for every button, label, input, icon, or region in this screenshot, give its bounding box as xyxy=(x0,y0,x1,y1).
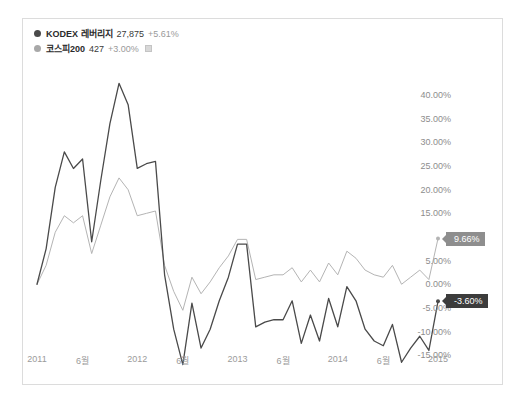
x-axis-tick-label: 2014 xyxy=(328,354,348,364)
legend-marker-icon xyxy=(34,30,41,37)
chart-panel: 40.00%35.00%30.00%25.00%20.00%15.00%10.0… xyxy=(22,18,503,385)
x-axis-tick-label: 2011 xyxy=(27,354,46,364)
legend-series-name: 코스피200 xyxy=(46,42,85,55)
x-axis-tick-label: 2015 xyxy=(428,354,448,364)
x-axis-tick-label: 6월 xyxy=(76,354,89,367)
primary-value-badge: -3.60% xyxy=(446,294,488,308)
legend-series-change: +3.00% xyxy=(108,44,139,54)
legend-series-value: 427 xyxy=(89,44,104,54)
x-axis-tick-label: 6월 xyxy=(176,354,189,367)
legend-item[interactable]: KODEX 레버리지27,875+5.61% xyxy=(34,26,364,41)
legend-item[interactable]: 코스피200427+3.00% xyxy=(34,41,364,56)
legend-series-value: 27,875 xyxy=(117,29,145,39)
x-axis-tick-label: 2013 xyxy=(227,354,247,364)
x-axis: 20116월20126월20136월20146월2015 xyxy=(23,354,503,366)
chart-legend: KODEX 레버리지27,875+5.61%코스피200427+3.00% xyxy=(34,26,364,56)
chart-lines xyxy=(23,19,503,385)
series-line xyxy=(37,83,438,364)
legend-series-change: +5.61% xyxy=(148,29,179,39)
legend-series-name: KODEX 레버리지 xyxy=(46,27,113,40)
series-endpoint-marker xyxy=(436,237,440,241)
x-axis-tick-label: 6월 xyxy=(377,354,390,367)
x-axis-tick-label: 6월 xyxy=(277,354,290,367)
secondary-value-badge: 9.66% xyxy=(446,232,485,246)
legend-marker-icon xyxy=(34,45,41,52)
x-axis-tick-label: 2012 xyxy=(127,354,147,364)
legend-remove-icon[interactable] xyxy=(145,45,152,52)
series-endpoint-marker xyxy=(436,299,440,303)
plot-area[interactable] xyxy=(23,19,503,385)
